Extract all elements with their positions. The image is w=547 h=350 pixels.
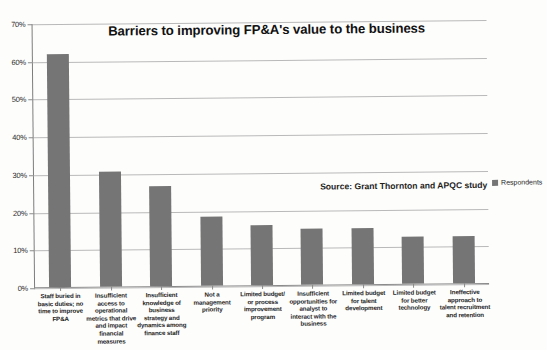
x-axis-category-label: Insufficient access to operational metri… — [86, 291, 137, 345]
x-axis-category-label: Insufficient opportunities for analyst t… — [288, 289, 339, 327]
y-axis-tick-label: 10% — [13, 246, 28, 255]
x-axis-tick-mark — [60, 287, 61, 291]
bar-slot — [184, 22, 237, 285]
bar[interactable] — [402, 236, 424, 284]
bar[interactable] — [452, 236, 474, 283]
bar-slot — [285, 21, 338, 284]
bar[interactable] — [200, 216, 223, 286]
bar-slot — [33, 24, 86, 287]
bar-slot — [234, 22, 287, 285]
bar-chart: Barriers to improving FP&A's value to th… — [0, 0, 547, 350]
bar[interactable] — [149, 186, 172, 286]
y-axis-tick-label: 60% — [11, 58, 26, 67]
x-axis-tick-mark — [312, 285, 313, 289]
x-axis-tick-mark — [212, 286, 213, 290]
legend-swatch-respondents — [492, 179, 498, 185]
x-axis-tick-mark — [111, 287, 112, 291]
bar[interactable] — [301, 228, 324, 285]
y-axis-tick-label: 50% — [12, 95, 27, 104]
plot-area: 0%10%20%30%40%50%60%70% — [32, 20, 490, 288]
bar[interactable] — [250, 225, 273, 285]
x-axis-tick-mark — [161, 286, 162, 290]
bar-slot — [335, 21, 388, 284]
legend-label-respondents: Respondents — [501, 178, 542, 185]
y-axis-tick-label: 20% — [13, 208, 28, 217]
y-axis-tick-label: 70% — [11, 20, 26, 29]
y-axis-tick-mark — [30, 288, 35, 289]
x-axis-tick-mark — [363, 284, 364, 288]
x-axis-tick-mark — [464, 283, 465, 287]
x-axis-category-label: Not a management priority — [187, 290, 238, 313]
x-axis-category-label: Insufficient knowledge of business strat… — [136, 291, 187, 337]
bar[interactable] — [99, 172, 122, 287]
x-axis-category-label: Staff buried in basic duties; no time to… — [35, 292, 86, 323]
bar-series — [33, 20, 490, 287]
bar-slot — [133, 23, 186, 286]
x-axis-category-label: Limited budget/ or process improvement p… — [237, 290, 288, 321]
chart-legend: Respondents — [492, 178, 542, 185]
source-annotation: Source: Grant Thornton and APQC study — [320, 180, 487, 192]
y-axis-tick-label: 40% — [12, 133, 27, 142]
x-axis-tick-mark — [262, 285, 263, 289]
bar-slot — [386, 20, 439, 283]
x-axis-category-label: Ineffective approach to talent recruitme… — [440, 288, 491, 319]
x-axis-category-label: Limited budget for better technology — [389, 288, 440, 311]
y-axis-tick-label: 0% — [18, 284, 29, 293]
x-axis-tick-mark — [413, 284, 414, 288]
bar[interactable] — [47, 54, 71, 287]
bar-slot — [436, 20, 489, 283]
x-axis-category-labels: Staff buried in basic duties; no time to… — [35, 288, 491, 350]
bar[interactable] — [351, 228, 374, 284]
bar-slot — [83, 23, 136, 286]
x-axis-category-label: Limited budget for talent development — [338, 289, 389, 312]
y-axis-tick-label: 30% — [13, 171, 28, 180]
